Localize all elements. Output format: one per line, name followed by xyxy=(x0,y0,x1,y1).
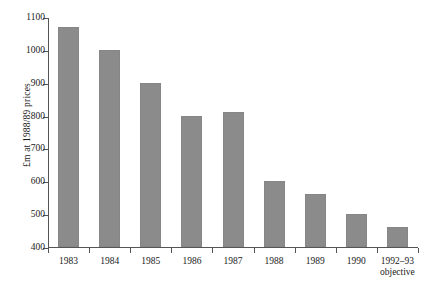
y-axis-tick-label: 800 xyxy=(31,111,45,121)
x-axis-tick-mark xyxy=(171,248,172,253)
bar xyxy=(58,27,79,247)
y-axis-tick-label: 1100 xyxy=(26,12,45,22)
bar xyxy=(346,214,367,247)
bar xyxy=(140,83,161,247)
x-axis-tick-mark xyxy=(89,248,90,253)
x-axis-tick-label: 1992–93 objective xyxy=(367,256,427,278)
bar xyxy=(223,112,244,247)
x-axis-tick-mark xyxy=(377,248,378,253)
x-axis-tick-mark xyxy=(254,248,255,253)
y-axis-tick-label: 500 xyxy=(31,209,45,219)
x-axis-tick-mark xyxy=(336,248,337,253)
y-axis-tick-label: 400 xyxy=(31,242,45,252)
bar xyxy=(305,194,326,247)
y-axis-line xyxy=(48,18,49,248)
x-axis-line xyxy=(48,247,418,248)
x-axis-tick-mark xyxy=(48,248,49,253)
y-axis-tick-label: 600 xyxy=(31,176,45,186)
y-axis-tick-label: 700 xyxy=(31,143,45,153)
x-axis-tick-mark xyxy=(295,248,296,253)
x-axis-tick-mark xyxy=(130,248,131,253)
bar xyxy=(181,116,202,247)
y-axis-tick-label: 900 xyxy=(31,78,45,88)
bar-chart-figure: £m at 1988/89 prices 4005006007008009001… xyxy=(0,0,427,297)
plot-area: 40050060070080090010001100 xyxy=(48,18,418,248)
y-axis-tick-label: 1000 xyxy=(26,45,45,55)
bar xyxy=(99,50,120,247)
x-axis-tick-mark xyxy=(418,248,419,253)
x-axis-tick-mark xyxy=(212,248,213,253)
bar xyxy=(264,181,285,247)
bar xyxy=(387,227,408,247)
